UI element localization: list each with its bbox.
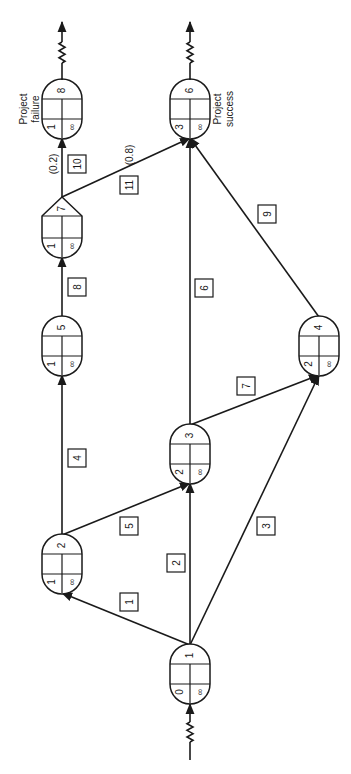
edges-layer: [62, 138, 319, 645]
node-4: 42∞: [299, 316, 339, 376]
node-number: 3: [185, 432, 196, 438]
network-diagram: 10∞21∞32∞42∞51∞71∞63∞Projectsuccess81∞Pr…: [0, 0, 351, 774]
activity-number: 11: [124, 179, 135, 190]
branch-probability: (0.8): [124, 145, 135, 166]
node-value-left: 3: [175, 124, 186, 130]
node-number: 4: [314, 324, 325, 330]
activity-label-4: 4: [68, 449, 86, 467]
node-2: 21∞: [42, 534, 82, 594]
node-number: 1: [185, 652, 196, 658]
node-5: 51∞: [42, 316, 82, 376]
project-failure-caption: Projectfailure: [18, 93, 41, 124]
activity-number: 1: [124, 599, 135, 605]
caption-line: success: [224, 91, 235, 127]
caption-line: Project: [212, 93, 223, 124]
activity-number: 8: [72, 284, 83, 290]
caption-line: Project: [18, 93, 29, 124]
activity-label-11: 11: [120, 176, 138, 194]
activity-number: 2: [171, 560, 182, 566]
node-value-right: ∞: [67, 124, 77, 130]
node-value-right: ∞: [324, 361, 334, 367]
activity-label-3: 3: [257, 517, 275, 535]
activity-label-6: 6: [195, 279, 213, 297]
activity-number: 3: [261, 523, 272, 529]
activity-label-10: 10: [68, 155, 86, 173]
node-7: 71∞: [42, 197, 82, 258]
node-6: 63∞Projectsuccess: [170, 22, 235, 139]
node-number: 2: [57, 542, 68, 548]
node-value-left: 1: [47, 124, 58, 130]
node-value-right: ∞: [67, 361, 77, 367]
node-value-right: ∞: [195, 469, 205, 475]
activity-label-2: 2: [167, 554, 185, 572]
node-value-left: 1: [47, 361, 58, 367]
caption-line: failure: [30, 95, 41, 123]
activity-number: 6: [199, 285, 210, 291]
node-1: 10∞: [170, 644, 210, 760]
zigzag-icon: [187, 42, 193, 63]
node-number: 7: [57, 206, 68, 212]
activity-number: 7: [241, 383, 252, 389]
node-value-left: 2: [304, 361, 315, 367]
activity-number: 10: [72, 158, 83, 170]
activity-label-7: 7: [237, 377, 255, 395]
node-value-right: ∞: [195, 124, 205, 130]
node-value-left: 1: [47, 243, 58, 249]
node-number: 5: [57, 324, 68, 330]
nodes-layer: 10∞21∞32∞42∞51∞71∞63∞Projectsuccess81∞Pr…: [18, 22, 340, 760]
node-number: 8: [57, 87, 68, 93]
activity-number: 9: [262, 211, 273, 217]
node-value-right: ∞: [67, 243, 77, 249]
activity-label-8: 8: [68, 278, 86, 296]
activity-label-9: 9: [258, 205, 276, 223]
branch-probability: (0.2): [48, 154, 59, 175]
node-value-left: 2: [175, 469, 186, 475]
activity-arrow-3: [190, 375, 319, 645]
node-3: 32∞: [170, 424, 210, 484]
node-value-left: 0: [175, 689, 186, 695]
activity-number: 5: [124, 523, 135, 529]
node-value-right: ∞: [67, 579, 77, 585]
node-value-right: ∞: [195, 689, 205, 695]
node-number: 6: [185, 87, 196, 93]
node-value-left: 1: [47, 579, 58, 585]
activity-number: 4: [72, 455, 83, 461]
zigzag-icon: [59, 42, 65, 63]
labels-layer: 12345678910(0.2)11(0.8): [48, 145, 277, 611]
zigzag-icon: [187, 722, 193, 742]
node-8: 81∞Projectfailure: [18, 22, 83, 139]
project-success-caption: Projectsuccess: [212, 91, 235, 127]
activity-label-5: 5: [120, 517, 138, 535]
activity-label-1: 1: [120, 593, 138, 611]
